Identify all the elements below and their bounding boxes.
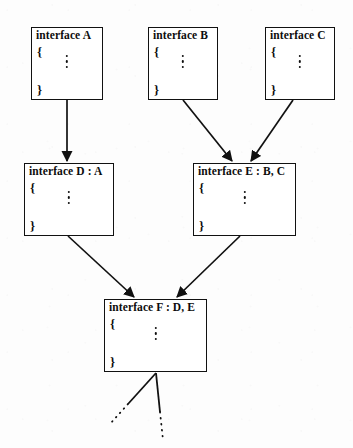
- interface-node-d-close-brace: }: [30, 219, 35, 232]
- interface-node-b-title: interface B: [153, 29, 208, 41]
- interface-node-a-close-brace: }: [37, 83, 42, 96]
- interface-node-b-open-brace: {: [154, 45, 159, 58]
- interface-node-a[interactable]: interface A { }: [31, 27, 103, 100]
- interface-node-e[interactable]: interface E : B, C { }: [193, 163, 296, 236]
- interface-node-c[interactable]: interface C { }: [265, 27, 335, 100]
- edge-c-to-e: [251, 100, 293, 161]
- diagram-canvas: interface A { } interface B { } interfac…: [0, 0, 353, 448]
- vertical-ellipsis-icon: [243, 191, 245, 204]
- edge-d-to-f: [68, 236, 134, 297]
- interface-node-f-title: interface F : D, E: [109, 301, 195, 313]
- vertical-ellipsis-icon: [299, 55, 301, 68]
- vertical-ellipsis-icon: [182, 55, 184, 68]
- interface-node-d[interactable]: interface D : A { }: [24, 163, 114, 236]
- edge-e-to-f: [177, 236, 240, 297]
- tail-left-dotted: [110, 404, 128, 424]
- interface-node-c-open-brace: {: [271, 45, 276, 58]
- interface-node-c-close-brace: }: [271, 83, 276, 96]
- interface-node-e-open-brace: {: [199, 181, 204, 194]
- vertical-ellipsis-icon: [68, 191, 70, 204]
- interface-node-f[interactable]: interface F : D, E { }: [104, 299, 207, 372]
- interface-node-e-close-brace: }: [199, 219, 204, 232]
- edge-b-to-e: [183, 100, 232, 161]
- interface-node-d-open-brace: {: [30, 181, 35, 194]
- interface-node-b-close-brace: }: [154, 83, 159, 96]
- tail-right-solid: [156, 373, 160, 412]
- vertical-ellipsis-icon: [66, 55, 68, 68]
- interface-node-a-title: interface A: [36, 29, 91, 41]
- interface-node-f-open-brace: {: [110, 317, 115, 330]
- vertical-ellipsis-icon: [154, 327, 156, 340]
- interface-node-d-title: interface D : A: [29, 165, 102, 177]
- interface-node-e-title: interface E : B, C: [198, 165, 285, 177]
- interface-node-c-title: interface C: [270, 29, 326, 41]
- interface-node-b[interactable]: interface B { }: [148, 27, 218, 100]
- interface-node-a-open-brace: {: [37, 45, 42, 58]
- tail-left-solid: [128, 373, 156, 404]
- interface-node-f-close-brace: }: [110, 355, 115, 368]
- tail-right-dotted: [160, 412, 163, 440]
